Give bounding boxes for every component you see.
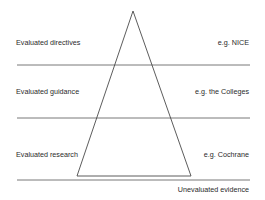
evidence-pyramid-diagram: Evaluated directives e.g. NICE Evaluated… (0, 0, 265, 200)
tier-label-guidance: Evaluated guidance (16, 88, 79, 95)
pyramid-graphic (0, 0, 265, 200)
tier-example-cochrane: e.g. Cochrane (204, 151, 249, 158)
tier-example-colleges: e.g. the Colleges (195, 88, 249, 95)
pyramid-triangle (77, 11, 191, 176)
tier-example-nice: e.g. NICE (218, 39, 249, 46)
tier-label-research: Evaluated research (16, 151, 78, 158)
footer-unevaluated-evidence: Unevaluated evidence (178, 186, 249, 193)
tier-label-directives: Evaluated directives (16, 39, 80, 46)
